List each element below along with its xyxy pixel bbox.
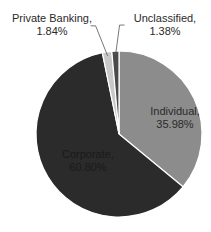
label-individual: Individual, 35.98% <box>143 105 207 131</box>
label-individual-name: Individual, <box>143 105 207 118</box>
label-unclassified-value: 1.38% <box>126 25 204 38</box>
label-corporate-value: 60.80% <box>56 161 120 174</box>
label-corporate: Corporate, 60.80% <box>56 148 120 174</box>
label-private-banking-value: 1.84% <box>6 25 98 38</box>
label-unclassified: Unclassified, 1.38% <box>126 12 204 38</box>
label-private-banking-name: Private Banking, <box>6 12 98 25</box>
label-corporate-name: Corporate, <box>56 148 120 161</box>
label-private-banking: Private Banking, 1.84% <box>6 12 98 38</box>
pie-slices <box>36 51 202 217</box>
label-individual-value: 35.98% <box>143 118 207 131</box>
label-unclassified-name: Unclassified, <box>126 12 204 25</box>
